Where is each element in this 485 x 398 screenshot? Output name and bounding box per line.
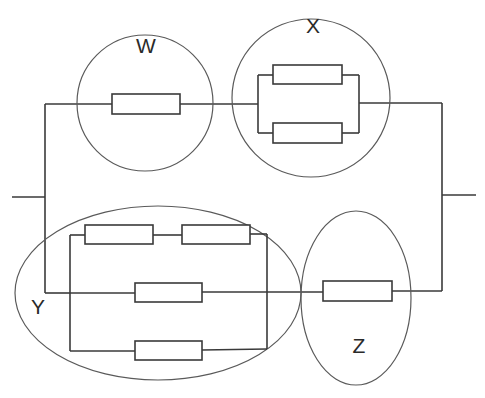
- top-branch-wiring: [45, 103, 442, 104]
- label-z: Z: [353, 334, 366, 357]
- circuit-diagram: W X Y: [0, 0, 485, 398]
- resistor-y-middle: [135, 283, 202, 302]
- resistor-y-top-right: [182, 225, 250, 244]
- resistor-x-upper: [273, 65, 342, 84]
- group-x: X: [232, 14, 390, 177]
- resistor-y-top-left: [85, 225, 153, 244]
- resistor-y-bottom: [135, 341, 202, 360]
- group-z: Z: [301, 211, 411, 385]
- resistor-z: [323, 281, 392, 301]
- group-x-outline: [232, 19, 390, 177]
- resistor-w: [112, 94, 180, 114]
- label-w: W: [136, 34, 156, 57]
- group-w: W: [77, 34, 213, 171]
- resistor-x-lower: [273, 123, 342, 143]
- label-x: X: [306, 14, 320, 37]
- label-y: Y: [31, 295, 45, 318]
